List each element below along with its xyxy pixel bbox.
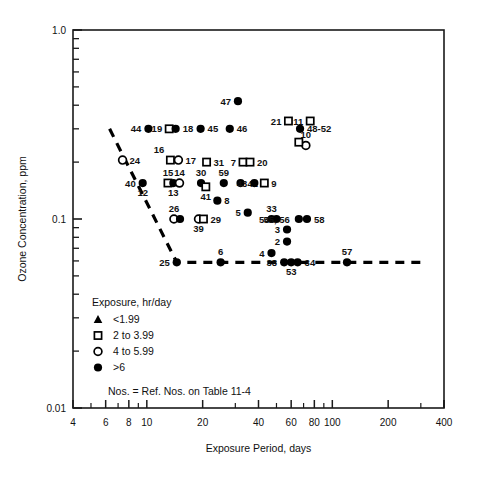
legend-label: 2 to 3.99 bbox=[113, 329, 154, 341]
data-point-label: 2 bbox=[275, 236, 280, 247]
x-tick-label: 8 bbox=[126, 417, 132, 428]
data-point-label: 26 bbox=[169, 203, 180, 214]
data-point-label: 7 bbox=[231, 157, 236, 168]
y-tick-label: 0.1 bbox=[52, 214, 66, 225]
data-point-marker bbox=[176, 215, 184, 223]
data-point-label: 12 bbox=[137, 187, 148, 198]
data-point-label: 5 bbox=[235, 207, 241, 218]
data-point-marker bbox=[213, 197, 221, 205]
data-point-label: 24 bbox=[130, 155, 141, 166]
data-point-label: 47 bbox=[220, 96, 231, 107]
legend-label: <1.99 bbox=[113, 313, 140, 325]
y-tick-label: 0.01 bbox=[47, 403, 67, 414]
data-point-label: 19 bbox=[152, 123, 163, 134]
data-point-label: 34 bbox=[305, 257, 316, 268]
data-point-label: 17 bbox=[185, 155, 196, 166]
data-point-marker bbox=[167, 156, 174, 163]
data-point-marker bbox=[244, 209, 252, 217]
data-point-label: 57 bbox=[342, 246, 353, 257]
data-point-label: 15 bbox=[163, 167, 174, 178]
data-point-marker bbox=[250, 179, 258, 187]
legend-note: Nos. = Ref. Nos. on Table 11-4 bbox=[108, 385, 251, 397]
data-point-label: 53 bbox=[286, 266, 297, 277]
data-point-label: 6 bbox=[218, 246, 223, 257]
data-point-label: 4 bbox=[259, 248, 265, 259]
data-point-marker bbox=[200, 215, 207, 222]
x-tick-label: 10 bbox=[141, 417, 153, 428]
data-point-label: 9 bbox=[271, 178, 276, 189]
chart-svg: 1.00.10.014681020406080100200400Exposure… bbox=[0, 0, 477, 478]
data-point-marker bbox=[343, 258, 351, 266]
data-point-marker bbox=[176, 179, 184, 187]
data-point-marker bbox=[202, 183, 209, 190]
data-point-marker bbox=[197, 125, 205, 133]
data-point-label: 43 bbox=[237, 178, 248, 189]
data-point-marker bbox=[217, 258, 225, 266]
data-point-marker bbox=[220, 179, 228, 187]
legend-label: 4 to 5.99 bbox=[113, 345, 154, 357]
data-point-marker bbox=[175, 156, 183, 164]
data-point-marker bbox=[203, 159, 210, 166]
x-tick-label: 40 bbox=[253, 417, 265, 428]
data-point-label: 38 bbox=[267, 257, 278, 268]
data-point-marker bbox=[285, 117, 292, 124]
data-point-label: 3 bbox=[275, 224, 280, 235]
data-point-label: 20 bbox=[257, 157, 268, 168]
data-point-label: 25 bbox=[159, 257, 170, 268]
data-point-marker bbox=[234, 97, 242, 105]
data-point-label: 14 bbox=[174, 167, 185, 178]
legend-marker-filled-triangle bbox=[94, 315, 103, 323]
data-point-label: 30 bbox=[196, 167, 207, 178]
data-point-label: 29 bbox=[210, 214, 221, 225]
data-point-marker bbox=[283, 225, 291, 233]
data-point-label: 44 bbox=[131, 123, 142, 134]
data-point-label: 55, 56 bbox=[263, 214, 289, 225]
data-point-marker bbox=[246, 159, 253, 166]
data-point-label: 59 bbox=[219, 167, 230, 178]
data-point-marker bbox=[283, 237, 291, 245]
data-point-marker bbox=[294, 258, 302, 266]
x-tick-label: 20 bbox=[197, 417, 209, 428]
data-point-marker bbox=[172, 125, 180, 133]
data-point-marker bbox=[226, 125, 234, 133]
x-tick-label: 200 bbox=[380, 417, 397, 428]
x-axis-label: Exposure Period, days bbox=[206, 442, 312, 454]
legend-label: >6 bbox=[113, 361, 125, 373]
y-tick-label: 1.0 bbox=[52, 25, 66, 36]
data-point-label: 58 bbox=[314, 214, 325, 225]
data-point-marker bbox=[119, 156, 127, 164]
data-point-label: 16 bbox=[154, 144, 165, 155]
data-point-marker bbox=[295, 139, 302, 146]
legend-marker-open-circle bbox=[94, 348, 102, 356]
data-point-marker bbox=[261, 179, 268, 186]
x-tick-label: 400 bbox=[436, 417, 453, 428]
data-point-label: 18 bbox=[183, 123, 194, 134]
x-tick-label: 80 bbox=[309, 417, 321, 428]
data-point-label: 40 bbox=[125, 178, 136, 189]
x-tick-label: 6 bbox=[103, 417, 109, 428]
data-point-label: 41 bbox=[201, 191, 212, 202]
x-tick-label: 4 bbox=[70, 417, 76, 428]
ozone-exposure-chart: 1.00.10.014681020406080100200400Exposure… bbox=[0, 0, 477, 478]
data-point-label: 31 bbox=[214, 157, 225, 168]
legend-marker-open-square bbox=[94, 332, 101, 339]
x-tick-label: 60 bbox=[286, 417, 298, 428]
data-point-label: 11 bbox=[293, 116, 304, 127]
data-point-marker bbox=[239, 159, 246, 166]
x-tick-label: 100 bbox=[324, 417, 341, 428]
y-axis-label: Ozone Concentration, ppm bbox=[16, 156, 28, 282]
data-point-label: 21 bbox=[271, 116, 282, 127]
data-point-label: 8 bbox=[224, 195, 229, 206]
data-point-marker bbox=[173, 258, 181, 266]
data-point-label: 13 bbox=[168, 187, 179, 198]
legend-title: Exposure, hr/day bbox=[92, 296, 172, 308]
data-point-marker bbox=[139, 179, 147, 187]
data-point-label: 46 bbox=[237, 123, 248, 134]
data-point-label: 39 bbox=[193, 223, 204, 234]
data-point-marker bbox=[295, 215, 303, 223]
data-point-label: 45 bbox=[208, 123, 219, 134]
data-point-label: 33 bbox=[266, 203, 277, 214]
data-point-marker bbox=[303, 215, 311, 223]
data-point-marker bbox=[280, 258, 288, 266]
legend-marker-filled-circle bbox=[94, 363, 102, 371]
